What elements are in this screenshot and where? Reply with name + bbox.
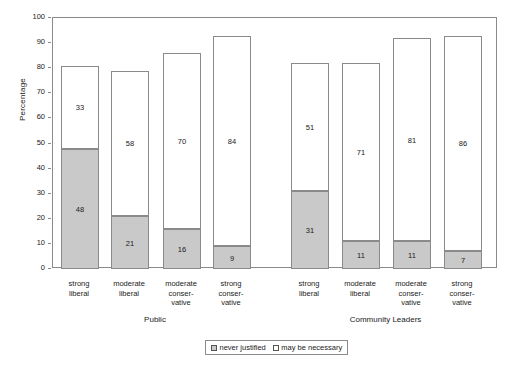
legend-entry-never-justified: never justified (211, 343, 266, 352)
legend-entry-may-be-necessary: may be necessary (273, 343, 342, 352)
group-label-public: Public (85, 315, 225, 324)
y-tick-mark (48, 17, 51, 18)
y-tick-mark (48, 67, 51, 68)
bar-value-may-be-necessary: 84 (214, 137, 250, 146)
bar-value-never-justified: 11 (343, 251, 379, 260)
bar-segment-never-justified: 7 (444, 251, 482, 269)
bar-public-strong-conservative: 849 (213, 36, 251, 269)
bar-segment-may-be-necessary: 84 (213, 36, 251, 247)
chart-legend: never justifiedmay be necessary (205, 340, 348, 355)
y-tick-label-10: 10 (21, 238, 45, 247)
y-tick-mark (48, 92, 51, 93)
bar-value-never-justified: 11 (394, 251, 430, 260)
bar-community-leaders-strong-liberal: 5131 (291, 63, 329, 269)
bar-segment-may-be-necessary: 71 (342, 63, 380, 241)
bar-public-moderate-liberal: 5821 (111, 71, 149, 269)
bar-value-may-be-necessary: 81 (394, 136, 430, 145)
y-tick-mark (48, 193, 51, 194)
bar-value-may-be-necessary: 86 (445, 139, 481, 148)
y-tick-label-100: 100 (21, 12, 45, 21)
bar-public-moderate-conservative: 7016 (163, 53, 201, 269)
bar-value-never-justified: 48 (62, 205, 98, 214)
bar-segment-may-be-necessary: 51 (291, 63, 329, 191)
bar-segment-may-be-necessary: 70 (163, 53, 201, 229)
y-tick-label-80: 80 (21, 62, 45, 71)
legend-swatch-icon (211, 345, 217, 351)
legend-label: never justified (220, 343, 266, 352)
y-tick-mark (48, 268, 51, 269)
legend-swatch-icon (273, 345, 279, 351)
bar-segment-never-justified: 11 (342, 241, 380, 269)
bar-segment-never-justified: 16 (163, 229, 201, 269)
group-label-community-leaders: Community Leaders (316, 315, 456, 324)
y-tick-label-40: 40 (21, 163, 45, 172)
x-axis-label-line: vative (199, 298, 263, 308)
x-axis-label-line: vative (430, 298, 494, 308)
bar-value-may-be-necessary: 51 (292, 123, 328, 132)
x-axis-label-strong-conservative: strongconser-vative (199, 279, 263, 308)
bar-segment-may-be-necessary: 33 (61, 66, 99, 149)
bar-value-may-be-necessary: 58 (112, 139, 148, 148)
bar-segment-may-be-necessary: 86 (444, 36, 482, 252)
bar-public-strong-liberal: 3348 (61, 66, 99, 269)
y-tick-label-70: 70 (21, 87, 45, 96)
x-axis-label-line: strong (199, 279, 263, 289)
bar-community-leaders-strong-conservative: 867 (444, 36, 482, 269)
bar-segment-may-be-necessary: 58 (111, 71, 149, 217)
bar-value-never-justified: 16 (164, 245, 200, 254)
bar-value-may-be-necessary: 71 (343, 148, 379, 157)
bar-community-leaders-moderate-conservative: 8111 (393, 38, 431, 269)
plot-area: 334858217016849513171118111867 (52, 17, 497, 268)
bar-segment-never-justified: 11 (393, 241, 431, 269)
x-axis-label-line: strong (430, 279, 494, 289)
bar-segment-never-justified: 9 (213, 246, 251, 269)
x-axis-label-line: conser- (430, 289, 494, 299)
y-tick-mark (48, 42, 51, 43)
bar-segment-never-justified: 48 (61, 149, 99, 269)
y-tick-mark (48, 168, 51, 169)
y-tick-label-30: 30 (21, 188, 45, 197)
bar-value-never-justified: 21 (112, 239, 148, 248)
y-tick-label-60: 60 (21, 112, 45, 121)
bar-segment-may-be-necessary: 81 (393, 38, 431, 241)
bar-value-may-be-necessary: 33 (62, 103, 98, 112)
x-axis-label-strong-conservative: strongconser-vative (430, 279, 494, 308)
bar-value-never-justified: 9 (214, 254, 250, 263)
chart-container: Percentage 0102030405060708090100 334858… (0, 0, 511, 371)
y-tick-mark (48, 218, 51, 219)
y-tick-label-50: 50 (21, 138, 45, 147)
y-tick-label-90: 90 (21, 37, 45, 46)
y-tick-mark (48, 117, 51, 118)
legend-label: may be necessary (281, 343, 342, 352)
bar-value-never-justified: 7 (445, 256, 481, 265)
bar-segment-never-justified: 21 (111, 216, 149, 269)
bar-community-leaders-moderate-liberal: 7111 (342, 63, 380, 269)
y-tick-mark (48, 143, 51, 144)
y-tick-label-20: 20 (21, 213, 45, 222)
x-axis-label-line: conser- (199, 289, 263, 299)
bar-value-may-be-necessary: 70 (164, 137, 200, 146)
y-tick-mark (48, 243, 51, 244)
bar-value-never-justified: 31 (292, 226, 328, 235)
bar-segment-never-justified: 31 (291, 191, 329, 269)
y-tick-label-0: 0 (21, 263, 45, 272)
